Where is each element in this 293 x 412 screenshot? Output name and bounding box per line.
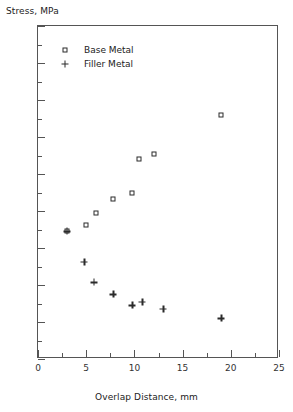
x-tick-label: 5 bbox=[83, 363, 89, 373]
x-minor-tick-mark bbox=[110, 353, 111, 357]
y-minor-tick-mark bbox=[38, 193, 42, 194]
y-axis-title: Stress, MPa bbox=[6, 6, 59, 16]
data-point-square bbox=[111, 196, 116, 201]
y-minor-tick-mark bbox=[38, 304, 42, 305]
data-point-plus bbox=[160, 306, 167, 313]
data-point-plus bbox=[110, 291, 117, 298]
y-minor-tick-mark bbox=[38, 156, 42, 157]
y-tick-mark bbox=[38, 359, 45, 360]
x-tick-label: 15 bbox=[177, 363, 188, 373]
x-axis-title: Overlap Distance, mm bbox=[0, 392, 293, 402]
x-tick-mark bbox=[38, 350, 39, 357]
y-tick-mark bbox=[38, 248, 45, 249]
data-point-square bbox=[137, 157, 142, 162]
data-point-square bbox=[84, 222, 89, 227]
y-tick-mark bbox=[38, 174, 45, 175]
y-minor-tick-mark bbox=[38, 119, 42, 120]
data-point-plus bbox=[63, 228, 70, 235]
x-tick-mark bbox=[134, 350, 135, 357]
x-minor-tick-mark bbox=[159, 353, 160, 357]
x-tick-label: 20 bbox=[225, 363, 236, 373]
x-minor-tick-mark bbox=[62, 353, 63, 357]
data-point-square bbox=[93, 210, 98, 215]
x-minor-tick-mark bbox=[207, 353, 208, 357]
legend-label: Base Metal bbox=[84, 43, 134, 57]
y-minor-tick-mark bbox=[38, 230, 42, 231]
data-point-plus bbox=[129, 302, 136, 309]
y-minor-tick-mark bbox=[38, 45, 42, 46]
x-tick-mark bbox=[183, 350, 184, 357]
data-point-plus bbox=[81, 258, 88, 265]
y-minor-tick-mark bbox=[38, 267, 42, 268]
x-tick-label: 10 bbox=[129, 363, 140, 373]
x-tick-mark bbox=[86, 350, 87, 357]
x-tick-label: 0 bbox=[35, 363, 41, 373]
data-point-plus bbox=[90, 279, 97, 286]
y-tick-mark bbox=[38, 100, 45, 101]
data-point-plus bbox=[218, 315, 225, 322]
legend-label: Filler Metal bbox=[84, 57, 133, 71]
y-tick-mark bbox=[38, 322, 45, 323]
y-tick-mark bbox=[38, 211, 45, 212]
x-tick-mark bbox=[279, 350, 280, 357]
y-tick-mark bbox=[38, 63, 45, 64]
y-minor-tick-mark bbox=[38, 341, 42, 342]
y-tick-mark bbox=[38, 137, 45, 138]
square-marker-icon bbox=[63, 48, 68, 53]
y-tick-mark bbox=[38, 26, 45, 27]
data-point-square bbox=[151, 151, 156, 156]
data-point-square bbox=[219, 112, 224, 117]
x-minor-tick-mark bbox=[255, 353, 256, 357]
plus-marker-icon bbox=[62, 61, 69, 68]
plot-area: 020406080100120140160180 0510152025 Base… bbox=[37, 25, 278, 358]
y-tick-mark bbox=[38, 285, 45, 286]
x-tick-mark bbox=[231, 350, 232, 357]
data-point-plus bbox=[139, 298, 146, 305]
y-minor-tick-mark bbox=[38, 82, 42, 83]
data-point-square bbox=[130, 190, 135, 195]
scatter-chart-figure: Stress, MPa 020406080100120140160180 051… bbox=[0, 0, 293, 412]
x-tick-label: 25 bbox=[273, 363, 284, 373]
